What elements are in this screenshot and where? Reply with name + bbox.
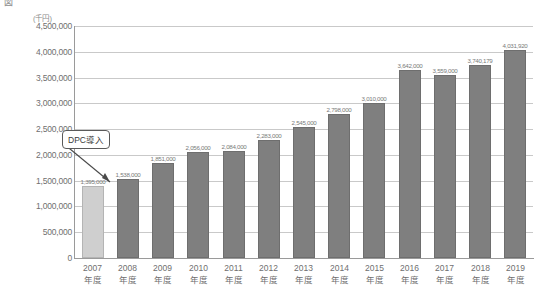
x-axis-year: 2012 [251,262,286,274]
x-axis-year: 2016 [392,262,427,274]
x-axis-year: 2010 [181,262,216,274]
plot-area: 1,395,0001,538,0001,851,0002,056,0002,08… [75,26,533,258]
bar-value-label: 2,283,000 [257,132,282,139]
x-axis-nendo: 年度 [498,274,533,286]
bar[interactable] [434,75,456,258]
chart-title: 図 [4,0,334,7]
x-axis-year: 2017 [427,262,462,274]
bar[interactable] [223,151,245,258]
x-axis-nendo: 年度 [286,274,321,286]
bar[interactable] [258,140,280,258]
x-axis-tick-label: 2007年度 [75,262,110,286]
x-axis-tick-label: 2014年度 [322,262,357,286]
x-axis-nendo: 年度 [357,274,392,286]
x-axis-tick-label: 2008年度 [110,262,145,286]
bar-group: 2,084,000 [223,26,245,258]
bar-value-label: 2,545,000 [292,119,317,126]
bar[interactable] [469,65,491,258]
bar-group: 4,031,920 [504,26,526,258]
bar[interactable] [187,152,209,258]
x-axis-nendo: 年度 [110,274,145,286]
x-axis-nendo: 年度 [75,274,110,286]
bar-value-label: 2,056,000 [186,144,211,151]
x-axis-year: 2008 [110,262,145,274]
x-axis-tick-label: 2016年度 [392,262,427,286]
x-axis-nendo: 年度 [145,274,180,286]
bar-value-label: 3,010,000 [362,95,387,102]
axis-baseline [75,258,533,259]
y-axis-tick-label: 4,000,000 [6,47,72,57]
y-axis-tick-label: 3,500,000 [6,73,72,83]
bar-group: 2,056,000 [187,26,209,258]
x-axis-nendo: 年度 [181,274,216,286]
y-axis-tick-label: 3,000,000 [6,98,72,108]
bar[interactable] [117,179,139,258]
x-axis-nendo: 年度 [251,274,286,286]
bar[interactable] [152,163,174,258]
x-axis-year: 2015 [357,262,392,274]
x-axis-tick-label: 2009年度 [145,262,180,286]
x-axis-tick-label: 2015年度 [357,262,392,286]
y-axis-tick-label: 1,000,000 [6,201,72,211]
x-axis-year: 2009 [145,262,180,274]
x-axis-year: 2018 [463,262,498,274]
x-axis-tick-label: 2019年度 [498,262,533,286]
bar-value-label: 3,740,179 [468,57,493,64]
x-axis-year: 2007 [75,262,110,274]
dpc-annotation-label: DPC導入 [62,130,110,149]
bar[interactable] [504,50,526,258]
x-axis-tick-label: 2010年度 [181,262,216,286]
bar[interactable] [328,114,350,258]
x-axis-tick-label: 2011年度 [216,262,251,286]
y-axis-tick-label: 4,500,000 [6,21,72,31]
bar-value-label: 2,084,000 [222,143,247,150]
x-axis-tick-label: 2017年度 [427,262,462,286]
x-axis-year: 2014 [322,262,357,274]
x-axis-nendo: 年度 [427,274,462,286]
bar[interactable] [82,186,104,258]
bar-value-label: 3,559,000 [433,67,458,74]
bar-group: 3,559,000 [434,26,456,258]
x-axis-tick-label: 2018年度 [463,262,498,286]
x-axis-tick-label: 2012年度 [251,262,286,286]
bar-group: 3,740,179 [469,26,491,258]
x-axis-nendo: 年度 [322,274,357,286]
bar[interactable] [363,103,385,258]
x-axis-year: 2011 [216,262,251,274]
x-axis-nendo: 年度 [463,274,498,286]
y-axis-tick-label: 0 [6,253,72,263]
bar-value-label: 2,798,000 [327,106,352,113]
bar-group: 2,283,000 [258,26,280,258]
bar-value-label: 1,851,000 [151,155,176,162]
x-axis-year: 2019 [498,262,533,274]
bar-group: 3,010,000 [363,26,385,258]
y-axis-tick-label: 500,000 [6,227,72,237]
bar-chart: 図 (千円) 4,500,0004,000,0003,500,0003,000,… [0,0,541,302]
bar-group: 2,798,000 [328,26,350,258]
x-axis-nendo: 年度 [216,274,251,286]
x-axis-tick-label: 2013年度 [286,262,321,286]
x-axis-nendo: 年度 [392,274,427,286]
bar-value-label: 3,642,000 [398,62,423,69]
x-axis-year: 2013 [286,262,321,274]
bar-group: 2,545,000 [293,26,315,258]
bar-group: 1,851,000 [152,26,174,258]
bar[interactable] [399,70,421,258]
bar-value-label: 4,031,920 [503,42,528,49]
x-axis-tick-labels: 2007年度2008年度2009年度2010年度2011年度2012年度2013… [75,262,533,300]
bar[interactable] [293,127,315,258]
bar-group: 3,642,000 [399,26,421,258]
